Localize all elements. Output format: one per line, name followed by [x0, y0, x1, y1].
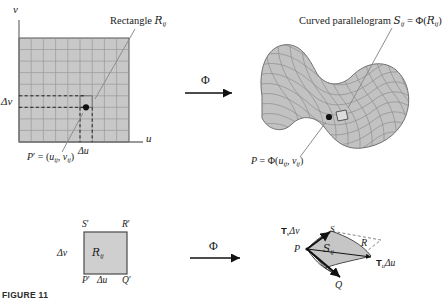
curved-parallelogram-title: Curved parallelogram Sij = Φ(Rij) — [299, 15, 442, 28]
region-label-Sij: Sij — [323, 243, 334, 256]
top-left-point-marker — [83, 104, 89, 110]
figure-canvas: v u Δv Δu Rectangle Rij P′ = (uij, vij) … — [0, 0, 448, 300]
rectangle-title-sub: ij — [163, 20, 167, 28]
cp-title-text: Curved parallelogram — [299, 15, 391, 26]
point-p-label: P = Φ(uij, vij) — [251, 156, 303, 168]
figure-caption: FIGURE 11 — [2, 291, 48, 300]
region-Sij-sub: ij — [330, 248, 334, 256]
top-right-point-marker — [326, 114, 332, 120]
p-close: ) — [300, 155, 303, 166]
axis-label-v: v — [13, 4, 18, 15]
corner-label-R: R — [361, 238, 367, 248]
p-name: P — [251, 155, 257, 166]
bottom-left-square — [84, 232, 127, 274]
p-prime-close: ) — [71, 151, 74, 162]
corner-S-prime-mark: ′ — [87, 219, 89, 229]
point-p-prime-label: P′ = (uij, vij) — [27, 152, 74, 164]
p-prime-comma: , — [58, 151, 61, 162]
top-left-grid-rect — [19, 38, 129, 142]
p-comma: , — [287, 155, 290, 166]
p-eq: = Φ( — [260, 155, 279, 166]
p-prime-mark: ′ — [33, 151, 35, 162]
corner-label-Q-prime: Q′ — [122, 276, 131, 286]
corner-R-prime-mark: ′ — [128, 219, 130, 229]
axis-label-u: u — [146, 133, 152, 144]
bottom-right-parallelogram — [305, 231, 381, 277]
corner-P-prime-mark: ′ — [88, 275, 90, 285]
top-right-surface — [250, 34, 420, 166]
cp-title-eq: = Φ( — [407, 15, 427, 26]
delta-v-label-bottom: Δv — [57, 248, 67, 258]
corner-label-P-prime: P′ — [82, 276, 90, 286]
tangent-vector-v-label: TvΔv — [281, 226, 299, 237]
rectangle-title-symbol: R — [155, 14, 163, 26]
p-prime-eq: = ( — [38, 151, 49, 162]
phi-symbol-bottom: Φ — [209, 240, 218, 252]
cp-title-close: ) — [438, 15, 442, 26]
corner-Q-prime-mark: ′ — [129, 275, 131, 285]
phi-symbol-top: Φ — [201, 74, 210, 86]
delta-u-label-bottom: Δu — [97, 276, 107, 286]
delta-u-label-top: Δu — [78, 146, 89, 156]
corner-label-S-prime: S′ — [82, 220, 89, 230]
region-Rij-symbol: R — [92, 246, 100, 258]
tu-delta: Δu — [385, 258, 395, 268]
cp-title-symbol2: R — [427, 14, 435, 26]
delta-v-label-top: Δv — [1, 96, 12, 107]
corner-label-S: S — [330, 225, 335, 234]
tv-delta: Δv — [290, 226, 300, 236]
corner-label-R-prime: R′ — [122, 220, 130, 230]
tangent-vector-u-label: TuΔu — [376, 258, 395, 269]
corner-Q-text: Q — [122, 275, 129, 285]
rectangle-title: Rectangle Rij — [110, 15, 166, 28]
cp-title-sub: ij — [401, 20, 405, 28]
cp-title-symbol: S — [393, 14, 400, 26]
region-label-Rij: Rij — [92, 247, 104, 260]
corner-label-Q: Q — [335, 280, 342, 290]
rectangle-title-text: Rectangle — [110, 15, 152, 26]
corner-label-P: P — [294, 244, 300, 254]
region-Rij-sub: ij — [100, 252, 104, 260]
